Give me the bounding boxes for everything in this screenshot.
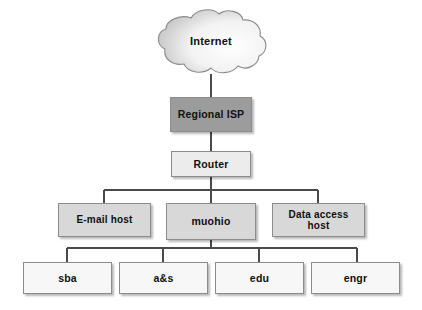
node-data-access-host: Data access host [272,203,365,237]
node-router: Router [171,151,251,177]
node-data-access-host-label-line1: Data access [288,209,348,221]
node-as: a&s [119,262,208,294]
node-edu: edu [215,262,304,294]
node-regional-isp: Regional ISP [170,97,252,132]
node-muohio: muohio [166,203,256,240]
node-as-label: a&s [154,272,174,284]
node-internet-label: Internet [190,35,232,48]
network-diagram: Internet Regional ISP Router E-mail host… [0,0,422,310]
node-muohio-label: muohio [191,215,230,227]
node-data-access-host-label: Data access host [288,209,348,232]
node-email-host: E-mail host [58,203,151,237]
node-sba-label: sba [58,272,77,284]
node-edu-label: edu [250,272,269,284]
node-engr: engr [311,262,400,294]
node-engr-label: engr [344,272,368,284]
node-internet: Internet [150,6,272,76]
node-email-host-label: E-mail host [76,214,132,226]
node-router-label: Router [193,158,228,170]
node-data-access-host-label-line2: host [288,220,348,232]
node-sba: sba [23,262,112,294]
node-regional-isp-label: Regional ISP [178,108,245,120]
